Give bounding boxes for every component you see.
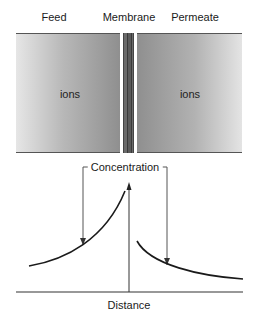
left-bracket-arrow — [83, 167, 90, 245]
y-axis-arrow-icon — [127, 182, 132, 190]
concentration-label: Concentration — [88, 161, 163, 173]
permeate-concentration-curve — [137, 241, 243, 279]
distance-label: Distance — [108, 299, 151, 311]
feed-concentration-curve — [29, 191, 125, 266]
right-bracket-arrow — [160, 167, 167, 265]
